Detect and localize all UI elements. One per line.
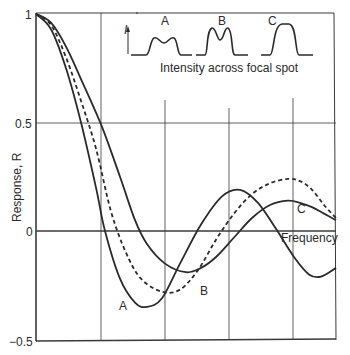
response-chart: 1 0.5 0 −0.5 Response, R Frequency A B C… <box>0 0 350 355</box>
y-tick-1: 1 <box>25 8 32 22</box>
y-tick-0.5: 0.5 <box>15 117 32 131</box>
curve-a <box>36 14 336 307</box>
y-tick-minus-0.5: −0.5 <box>9 335 33 349</box>
bottom-border <box>36 339 336 341</box>
inset-label-b: B <box>218 14 226 28</box>
y-tick-0: 0 <box>26 225 33 239</box>
curves <box>36 14 336 307</box>
inset-label-a: A <box>161 14 169 28</box>
inset-profile-a <box>131 38 192 55</box>
curve-label-a: A <box>119 299 127 313</box>
right-border <box>334 13 336 340</box>
inset-profile-b <box>196 28 248 55</box>
curve-label-c: C <box>297 202 306 216</box>
x-axis-label: Frequency <box>281 231 338 245</box>
inset-profile-c <box>261 24 313 55</box>
inset-caption: Intensity across focal spot <box>160 61 299 75</box>
y-axis-label: Response, R <box>10 152 24 222</box>
chart-container: 1 0.5 0 −0.5 Response, R Frequency A B C… <box>0 0 350 355</box>
inset-label-c: C <box>268 14 277 28</box>
curve-label-b: B <box>200 284 208 298</box>
